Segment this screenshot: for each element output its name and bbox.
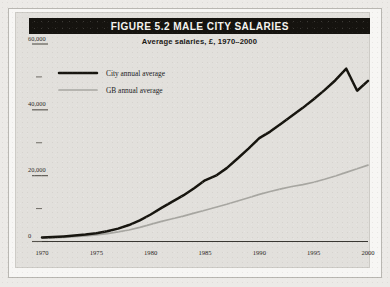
x-tick-label-1980: 1980: [144, 249, 158, 256]
figure-root: FIGURE 5.2 MALE CITY SALARIES Average sa…: [0, 0, 390, 287]
x-tick-label-1995: 1995: [307, 249, 321, 256]
legend: City annual average GB annual average: [59, 69, 166, 95]
line-chart: 020,00040,00060,000 19701975198019851990…: [0, 0, 390, 287]
y-tick-label-60000: 60,000: [28, 35, 46, 42]
x-tick-label-1975: 1975: [90, 249, 104, 256]
y-tick-label-40000: 40,000: [28, 100, 46, 107]
plot-area: 020,00040,00060,000 19701975198019851990…: [0, 0, 390, 287]
y-tick-label-20000: 20,000: [28, 166, 46, 173]
y-axis-group: 020,00040,00060,000: [28, 35, 48, 242]
legend-label-gb: GB annual average: [106, 86, 163, 95]
x-tick-label-1985: 1985: [198, 249, 212, 256]
x-tick-label-1990: 1990: [253, 249, 267, 256]
x-tick-label-2000: 2000: [361, 249, 375, 256]
legend-label-city: City annual average: [106, 69, 166, 78]
x-axis-group: 1970197519801985199019952000: [35, 249, 375, 256]
y-tick-label-0: 0: [28, 232, 31, 239]
x-tick-label-1970: 1970: [35, 249, 49, 256]
series-line-city-annual-average: [42, 69, 368, 238]
series-line-gb-annual-average: [42, 165, 368, 238]
